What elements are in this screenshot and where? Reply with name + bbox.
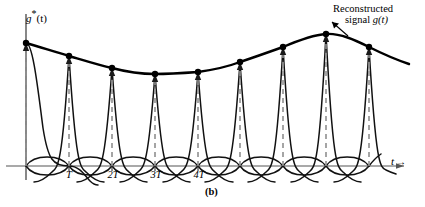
sample-dot-4: [195, 69, 201, 75]
x-axis-ticks-group: [69, 166, 198, 171]
x-tick-label-3: 3T: [150, 169, 161, 180]
figure-container: g*(t) t→ T 2T 3T 4T Reconstructed signal…: [0, 0, 425, 207]
sample-dot-2: [109, 65, 115, 71]
sample-dot-7: [323, 31, 329, 37]
x-tick-label-4: 4T: [193, 169, 204, 180]
sample-dot-8: [366, 44, 372, 50]
sidelobe-14: [326, 157, 369, 166]
annotation-line-1: Reconstructed: [333, 3, 393, 14]
annotation-line-2-prefix: signal: [345, 14, 373, 25]
sample-dot-5: [237, 59, 243, 65]
sinc-kernel-0: [26, 43, 98, 185]
sample-dot-3: [152, 71, 158, 77]
annotation-line-2: signal g(t): [333, 14, 393, 25]
sample-dots-group: [23, 31, 372, 77]
sidelobe-4: [112, 157, 155, 166]
x-tick-label-1: T: [66, 169, 72, 180]
x-tick-label-2: 2T: [107, 169, 118, 180]
x-axis-arrow-icon: →: [394, 156, 406, 167]
figure-caption: (b): [205, 186, 218, 197]
sampling-reconstruction-plot: [0, 0, 425, 207]
y-axis-label: g*(t): [26, 9, 47, 24]
sidelobe-2: [69, 157, 112, 166]
sidelobe-13: [283, 166, 326, 175]
annotation-line-2-symbol: g(t): [373, 14, 388, 25]
y-axis-label-arg: (t): [37, 12, 47, 24]
sample-dot-1: [66, 53, 72, 59]
sidelobe-15: [326, 166, 369, 175]
sample-dot-6: [280, 44, 286, 50]
sidelobe-1: [26, 166, 69, 175]
sidelobe-12: [283, 157, 326, 166]
reconstructed-signal-annotation: Reconstructed signal g(t): [333, 3, 393, 25]
sidelobe-10: [240, 157, 283, 166]
sidelobe-11: [240, 166, 283, 175]
sidelobe-6: [155, 157, 198, 166]
x-axis-label: t→: [391, 156, 406, 168]
sample-dot-0: [23, 40, 29, 46]
sinc-kernels-group: [26, 34, 396, 185]
reconstructed-signal-curve: [26, 34, 409, 74]
sidelobe-8: [198, 157, 240, 166]
